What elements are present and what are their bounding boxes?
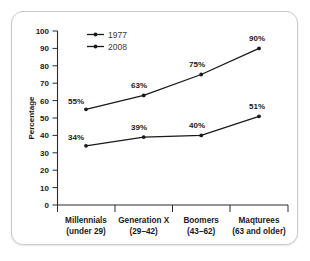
point-label-1977-2: 40% <box>189 121 205 130</box>
legend-label-1977: 1977 <box>108 30 127 40</box>
chart-legend: 1977 2008 <box>87 30 127 52</box>
point-label-1977-3: 51% <box>249 102 265 111</box>
point-label-2008-3: 90% <box>249 34 265 43</box>
point-label-2008-2: 75% <box>189 60 205 69</box>
y-tick-label-60: 60 <box>40 97 49 106</box>
y-axis-ticks <box>53 31 58 205</box>
y-tick-label-50: 50 <box>40 114 49 123</box>
y-tick-label-70: 70 <box>40 79 49 88</box>
point-label-2008-1: 63% <box>131 81 147 90</box>
legend-marker-1977 <box>94 33 98 37</box>
legend-item-2008[interactable]: 2008 <box>87 42 127 52</box>
x-category-label-0: Millennials <box>65 216 107 225</box>
x-category-sublabel-1: (29–42) <box>130 227 158 236</box>
y-tick-label-40: 40 <box>40 131 49 140</box>
x-axis-category-labels: Millennials (under 29) Generation X (29–… <box>65 216 286 236</box>
x-category-label-3: Maqturees <box>239 216 280 225</box>
y-tick-label-100: 100 <box>36 27 50 36</box>
x-category-sublabel-0: (under 29) <box>66 227 106 236</box>
x-category-label-1: Generation X <box>118 216 169 225</box>
series-point-labels-2008: 55% 63% 75% 90% <box>68 34 265 106</box>
point-label-2008-0: 55% <box>68 97 84 106</box>
x-category-sublabel-2: (43–62) <box>187 227 215 236</box>
legend-marker-2008 <box>94 45 98 49</box>
y-tick-label-0: 0 <box>45 201 50 210</box>
series-markers-2008 <box>84 47 261 112</box>
point-label-1977-1: 39% <box>131 123 147 132</box>
y-tick-label-90: 90 <box>40 44 49 53</box>
y-tick-label-20: 20 <box>40 166 49 175</box>
legend-item-1977[interactable]: 1977 <box>87 30 127 40</box>
y-tick-label-80: 80 <box>40 62 49 71</box>
series-line-2008 <box>86 48 259 109</box>
y-axis-title: Percentage <box>27 96 36 140</box>
y-tick-label-10: 10 <box>40 184 49 193</box>
plot-area: 100 90 80 70 60 50 40 30 20 10 0 Percent… <box>0 0 310 261</box>
x-axis-ticks <box>58 205 289 212</box>
line-chart-svg: 100 90 80 70 60 50 40 30 20 10 0 Percent… <box>0 0 310 261</box>
series-line-1977 <box>86 116 259 146</box>
chart-figure: 100 90 80 70 60 50 40 30 20 10 0 Percent… <box>0 0 310 261</box>
x-category-sublabel-3: (63 and older) <box>232 227 286 236</box>
y-tick-label-30: 30 <box>40 149 49 158</box>
x-category-label-2: Boomers <box>183 216 219 225</box>
point-label-1977-0: 34% <box>68 133 84 142</box>
legend-label-2008: 2008 <box>108 42 127 52</box>
